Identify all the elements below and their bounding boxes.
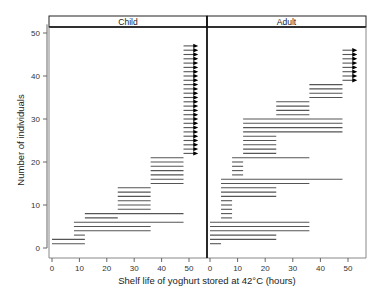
arrow-icon <box>193 52 198 56</box>
arrow-icon <box>193 130 198 134</box>
arrow-icon <box>193 134 198 138</box>
arrow-icon <box>193 57 198 61</box>
arrow-icon <box>193 143 198 147</box>
arrow-icon <box>193 138 198 142</box>
arrow-icon <box>193 78 198 82</box>
y-axis: 01020304050 <box>31 24 47 253</box>
x-tick-label: 40 <box>157 264 166 273</box>
panel-child: Child01020304050 <box>49 16 207 273</box>
arrow-icon <box>193 117 198 121</box>
arrow-icon <box>352 52 357 56</box>
arrow-icon <box>193 70 198 74</box>
y-tick-label: 20 <box>31 158 40 167</box>
x-tick-label: 10 <box>75 264 84 273</box>
arrow-icon <box>193 91 198 95</box>
x-tick-label: 30 <box>288 264 297 273</box>
arrow-icon <box>352 78 357 82</box>
arrow-icon <box>193 44 198 48</box>
y-axis-title: Number of individuals <box>15 94 26 186</box>
arrow-icon <box>352 65 357 69</box>
arrow-icon <box>193 113 198 117</box>
arrow-icon <box>193 108 198 112</box>
panel-strip-label: Adult <box>277 17 297 27</box>
x-tick-label: 50 <box>344 264 353 273</box>
x-tick-label: 50 <box>185 264 194 273</box>
arrow-icon <box>352 57 357 61</box>
y-tick-label: 50 <box>31 29 40 38</box>
arrow-icon <box>352 61 357 65</box>
x-tick-label: 20 <box>261 264 270 273</box>
x-tick-label: 10 <box>233 264 242 273</box>
shelf-life-chart: 01020304050 Child01020304050Adult0102030… <box>0 0 389 299</box>
arrow-icon <box>193 48 198 52</box>
arrow-icon <box>193 61 198 65</box>
arrow-icon <box>193 121 198 125</box>
arrow-icon <box>193 151 198 155</box>
arrow-icon <box>193 82 198 86</box>
arrow-icon <box>193 100 198 104</box>
x-tick-label: 30 <box>130 264 139 273</box>
arrow-icon <box>352 48 357 52</box>
arrow-icon <box>193 87 198 91</box>
arrow-icon <box>193 147 198 151</box>
arrow-icon <box>193 125 198 129</box>
arrow-icon <box>352 74 357 78</box>
y-tick-label: 30 <box>31 115 40 124</box>
x-axis-title: Shelf life of yoghurt stored at 42°C (ho… <box>118 275 296 286</box>
y-tick-label: 10 <box>31 201 40 210</box>
x-tick-label: 0 <box>208 264 213 273</box>
y-tick-label: 0 <box>36 244 41 253</box>
arrow-icon <box>193 74 198 78</box>
panel-adult: Adult01020304050 <box>207 16 366 273</box>
x-tick-label: 0 <box>50 264 55 273</box>
x-tick-label: 20 <box>102 264 111 273</box>
panels: Child01020304050Adult01020304050 <box>49 16 366 273</box>
arrow-icon <box>193 95 198 99</box>
x-tick-label: 40 <box>316 264 325 273</box>
arrow-icon <box>352 70 357 74</box>
arrow-icon <box>193 104 198 108</box>
panel-strip-label: Child <box>118 17 138 27</box>
y-tick-label: 40 <box>31 72 40 81</box>
arrow-icon <box>193 65 198 69</box>
